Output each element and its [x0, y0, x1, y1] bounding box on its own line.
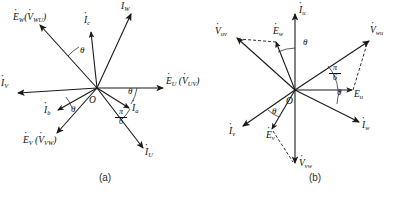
- label-vwu-b: Vwu: [370, 26, 383, 36]
- diagram-b-vectors: [210, 0, 420, 198]
- label-ew-vwu-a: EW(VWU): [13, 13, 46, 23]
- label-pi-over-6-b: π 6: [329, 64, 341, 83]
- label-iv-b: Iv: [229, 127, 235, 137]
- label-iv-a: IV: [1, 79, 8, 89]
- label-vuv-b: Vuv: [215, 27, 227, 37]
- label-theta-right-a: θ: [128, 87, 132, 96]
- dashed-link-eu-vwu-b: [353, 44, 367, 90]
- label-ia-a: Ia: [132, 104, 138, 114]
- caption-a: (a): [0, 172, 210, 183]
- caption-b: (b): [210, 172, 420, 183]
- origin-label-a: O: [89, 95, 96, 105]
- vector-iw-a: [97, 14, 131, 88]
- label-theta-bottom-a: θ: [71, 105, 75, 114]
- vector-ew-vwu-a: [40, 25, 97, 88]
- phasor-diagram-b: Iu Ew Vuv Vwu Eu Iw Iv Ev Vvw θ θ θ: [210, 0, 420, 198]
- label-pi-over-6-a: π 6: [115, 108, 127, 127]
- figure-root: IW Ic EW(VWU) IV EU (VUV) Ia Ib EV (VVW)…: [0, 0, 420, 198]
- vector-vuv-b: [237, 38, 295, 90]
- label-theta-top-b: θ: [303, 38, 307, 47]
- angle-arc-theta-top-a: [68, 47, 79, 56]
- label-ev-vvw-a: EV (VVW): [23, 136, 56, 146]
- label-iu-b: Iu: [299, 6, 305, 16]
- vector-iv-a: [18, 88, 97, 93]
- dashed-link-ew-vuv-b: [239, 39, 276, 42]
- label-theta-top-a: θ: [80, 46, 84, 55]
- vector-ic-a: [91, 32, 97, 88]
- label-ew-b: Ew: [273, 27, 283, 37]
- label-ib-a: Ib: [44, 106, 50, 116]
- vector-iw-b: [295, 90, 359, 122]
- dashed-link-ev-vvw-b: [273, 131, 293, 162]
- label-eu-vuv-a: EU (VUV): [166, 77, 200, 87]
- label-iw-b: Iw: [362, 121, 369, 131]
- label-ic-a: Ic: [84, 16, 90, 26]
- label-eu-b: Eu: [354, 90, 363, 100]
- label-iu-a: IU: [145, 148, 153, 158]
- origin-label-b: O: [286, 96, 293, 106]
- label-vvw-b: Vvw: [299, 159, 312, 169]
- angle-arc-theta-top-b: [278, 48, 295, 52]
- label-theta-bottom-b: θ: [272, 107, 276, 116]
- diagram-a-vectors: [0, 0, 210, 198]
- label-theta-right-b: θ: [337, 88, 341, 97]
- label-iw-a: IW: [121, 2, 130, 12]
- phasor-diagram-a: IW Ic EW(VWU) IV EU (VUV) Ia Ib EV (VVW)…: [0, 0, 210, 198]
- vector-ia-a: [97, 88, 129, 108]
- label-ev-b: Ev: [266, 131, 275, 141]
